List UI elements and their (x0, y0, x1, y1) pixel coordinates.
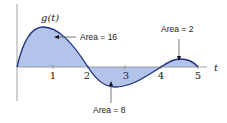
area-8-label: Area = 8 (93, 105, 126, 115)
tick-label-5: 5 (195, 70, 201, 81)
chart-canvas: 1 2 3 4 5 t g(t) Area = 16 Area = 8 Area… (0, 0, 227, 123)
tick-label-3: 3 (123, 70, 129, 81)
positive-area-region-1 (17, 27, 88, 67)
tick-label-1: 1 (50, 70, 56, 81)
function-label: g(t) (41, 12, 59, 23)
t-axis-label: t (214, 62, 219, 73)
area-16-label: Area = 16 (80, 32, 117, 42)
tick-label-2: 2 (84, 70, 90, 81)
area-2-label: Area = 2 (161, 24, 194, 34)
tick-label-4: 4 (158, 70, 164, 81)
